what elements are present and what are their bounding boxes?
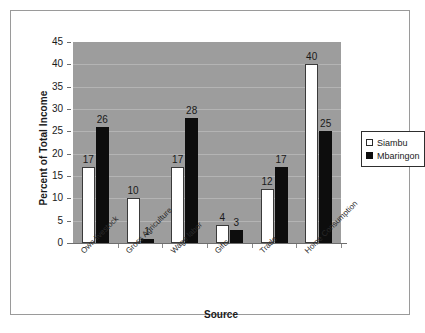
bar-value-label: 3 xyxy=(225,217,247,228)
legend-item-mbaringon: Mbaringon xyxy=(366,149,420,162)
bar-value-label: 10 xyxy=(122,185,144,196)
gridline xyxy=(73,64,341,65)
y-tick-label: 35 xyxy=(41,82,63,92)
bar-siambu-2 xyxy=(171,167,184,243)
y-tick-label: 0 xyxy=(41,238,63,248)
y-tick-mark xyxy=(67,42,71,43)
bar-value-label: 25 xyxy=(315,118,337,129)
y-tick-label: 10 xyxy=(41,193,63,203)
y-tick-label: 45 xyxy=(41,37,63,47)
y-tick-mark xyxy=(67,221,71,222)
open-square-icon xyxy=(366,139,373,146)
x-tick-mark xyxy=(118,244,119,248)
x-tick-mark xyxy=(162,244,163,248)
legend-label: Mbaringon xyxy=(377,151,420,161)
y-tick-mark xyxy=(67,87,71,88)
bar-mbaringon-3 xyxy=(230,230,243,243)
bar-value-label: 40 xyxy=(301,51,323,62)
bar-siambu-5 xyxy=(305,64,318,243)
y-tick-label: 25 xyxy=(41,126,63,136)
x-tick-mark xyxy=(341,244,342,248)
filled-square-icon xyxy=(366,152,373,159)
gridline xyxy=(73,176,341,177)
y-tick-label: 30 xyxy=(41,104,63,114)
y-tick-label: 40 xyxy=(41,59,63,69)
figure-frame: Percent of Total Income 0510152025303540… xyxy=(10,10,410,315)
gridline xyxy=(73,131,341,132)
gridline xyxy=(73,198,341,199)
bar-mbaringon-4 xyxy=(275,167,288,243)
y-tick-mark xyxy=(67,198,71,199)
x-tick-mark xyxy=(207,244,208,248)
bar-value-label: 17 xyxy=(270,154,292,165)
y-tick-mark xyxy=(67,64,71,65)
legend-label: Siambu xyxy=(377,138,408,148)
y-tick-label: 20 xyxy=(41,149,63,159)
bar-value-label: 28 xyxy=(181,105,203,116)
y-tick-label: 5 xyxy=(41,216,63,226)
y-tick-mark xyxy=(67,109,71,110)
legend-item-siambu: Siambu xyxy=(366,136,420,149)
y-tick-mark xyxy=(67,154,71,155)
gridline xyxy=(73,109,341,110)
gridline xyxy=(73,154,341,155)
x-axis-title: Source xyxy=(161,309,281,320)
y-tick-mark xyxy=(67,176,71,177)
chart-legend: SiambuMbaringon xyxy=(361,131,425,167)
x-tick-mark xyxy=(252,244,253,248)
y-tick-mark xyxy=(67,131,71,132)
x-tick-mark xyxy=(296,244,297,248)
y-tick-label: 15 xyxy=(41,171,63,181)
bar-siambu-0 xyxy=(82,167,95,243)
gridline xyxy=(73,87,341,88)
bar-value-label: 26 xyxy=(91,114,113,125)
